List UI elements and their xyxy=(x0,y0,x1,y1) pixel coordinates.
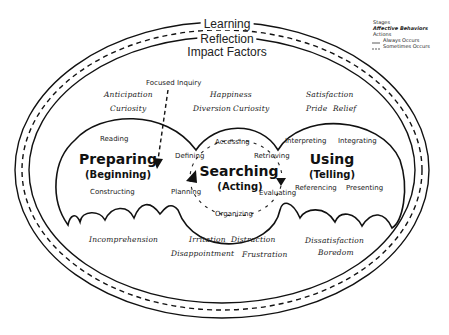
action-referencing: Referencing xyxy=(295,185,337,192)
focused-inquiry-label: Focused Inquiry xyxy=(146,80,201,87)
impact-factors-label: Impact Factors xyxy=(184,46,269,58)
action-interpreting: Interpreting xyxy=(285,138,326,145)
action-presenting: Presenting xyxy=(346,185,383,192)
information-search-model-diagram: Learning Reflection Impact Factors Stage… xyxy=(0,0,449,335)
action-defining: Defining xyxy=(175,153,204,160)
affect-satisfaction: Satisfaction xyxy=(306,91,353,99)
stage-searching-title: Searching xyxy=(200,164,279,178)
affect-anticipation: Anticipation xyxy=(104,91,153,99)
stage-using-subtitle: (Telling) xyxy=(309,170,355,180)
stage-searching-subtitle: (Acting) xyxy=(217,182,262,192)
action-planning: Planning xyxy=(171,189,201,196)
affect-incomprehension: Incomprehension xyxy=(89,236,158,244)
action-retrieving: Retrieving xyxy=(254,153,290,160)
affect-boredom: Boredom xyxy=(318,249,354,257)
action-accessing: Accessing xyxy=(215,139,250,146)
affect-relief: Relief xyxy=(333,105,356,113)
affect-dissatisfaction: Dissatisfaction xyxy=(305,237,364,245)
affect-irritation: Irritation xyxy=(189,236,226,244)
affect-curiosity-left: Curiosity xyxy=(110,105,146,113)
action-constructing: Constructing xyxy=(90,189,135,196)
stage-preparing-subtitle: (Beginning) xyxy=(85,170,151,180)
action-evaluating: Evaluating xyxy=(259,190,296,197)
affect-happiness: Happiness xyxy=(210,91,252,99)
affect-pride: Pride xyxy=(306,105,327,113)
action-integrating: Integrating xyxy=(338,138,377,145)
affect-disappointment: Disappointment xyxy=(171,250,234,258)
reflection-label: Reflection xyxy=(197,33,256,45)
affect-curiosity-mid: Curiosity xyxy=(233,105,269,113)
legend: Stages Affective Behaviors Actions Alway… xyxy=(373,19,430,49)
stage-preparing-title: Preparing xyxy=(79,152,157,166)
action-reading: Reading xyxy=(100,136,128,143)
affect-frustration: Frustration xyxy=(242,251,288,259)
legend-sometimes: Sometimes Occurs xyxy=(373,43,430,49)
stage-using-title: Using xyxy=(310,152,355,166)
action-organizing: Organizing xyxy=(215,211,253,218)
learning-label: Learning xyxy=(201,18,254,30)
affect-diversion: Diversion xyxy=(193,105,231,113)
affect-distraction: Distraction xyxy=(231,236,276,244)
